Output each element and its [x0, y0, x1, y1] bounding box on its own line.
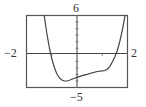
x-min-label: −2: [4, 47, 17, 59]
y-max-label: 6: [73, 2, 79, 14]
x-max-label: 2: [131, 47, 137, 59]
y-min-label: −5: [70, 91, 83, 103]
function-curve: [44, 16, 125, 82]
